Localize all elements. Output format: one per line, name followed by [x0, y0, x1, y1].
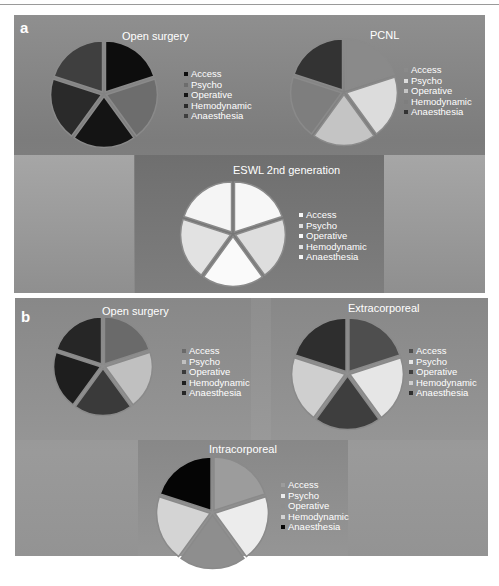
pie-chart — [155, 455, 270, 570]
pie-chart — [290, 316, 405, 431]
legend-label: Anaesthesia — [416, 388, 468, 399]
legend-item-access: Access — [184, 69, 252, 80]
chart-title: Extracorporeal — [348, 302, 420, 314]
legend-marker-icon — [404, 89, 408, 93]
legend-marker-icon — [281, 504, 285, 508]
pie-chart — [52, 315, 154, 417]
pie-chart — [49, 39, 159, 149]
legend-marker-icon — [281, 515, 285, 519]
legend-item-anaesthesia: Anaesthesia — [404, 107, 472, 118]
legend-marker-icon — [299, 234, 303, 238]
legend-label: Operative — [191, 90, 232, 101]
legend-marker-icon — [281, 483, 285, 487]
legend-marker-icon — [182, 381, 186, 385]
legend-item-access: Access — [409, 346, 477, 357]
chart-open-surgery-b: Open surgery AccessPsychoOperativeHemody… — [52, 298, 252, 440]
legend-marker-icon — [409, 349, 413, 353]
legend-label: Anaesthesia — [191, 111, 243, 122]
legend-item-operative: Operative — [299, 231, 367, 242]
legend-label: Anaesthesia — [411, 107, 463, 118]
legend-marker-icon — [299, 224, 303, 228]
legend-item-operative: Operative — [409, 367, 477, 378]
legend-item-access: Access — [182, 346, 250, 357]
legend-marker-icon — [409, 360, 413, 364]
legend-label: Access — [411, 65, 442, 76]
legend-marker-icon — [184, 114, 188, 118]
legend-marker-icon — [299, 255, 303, 259]
legend-label: Anaesthesia — [306, 252, 358, 263]
legend-item-anaesthesia: Anaesthesia — [182, 388, 250, 399]
legend-label: Anaesthesia — [288, 522, 340, 533]
legend-item-anaesthesia: Anaesthesia — [281, 522, 349, 533]
legend-item-anaesthesia: Anaesthesia — [299, 252, 367, 263]
legend-label: Operative — [189, 367, 230, 378]
legend-label: Access — [191, 69, 222, 80]
chart-pcnl: PCNL AccessPsychoOperativeHemodynamicAna… — [289, 15, 485, 155]
legend-marker-icon — [281, 494, 285, 498]
legend-label: Anaesthesia — [189, 388, 241, 399]
legend-label: Operative — [306, 231, 347, 242]
legend-item-operative: Operative — [404, 86, 472, 97]
legend-marker-icon — [409, 391, 413, 395]
legend-marker-icon — [182, 370, 186, 374]
legend-marker-icon — [299, 245, 303, 249]
chart-title: Intracorporeal — [209, 443, 277, 455]
legend-marker-icon — [182, 349, 186, 353]
legend-marker-icon — [184, 104, 188, 108]
legend: AccessPsychoOperativeHemodynamicAnaesthe… — [409, 346, 477, 399]
legend-item-access: Access — [281, 480, 349, 491]
legend-marker-icon — [182, 391, 186, 395]
panel-label-a: a — [20, 19, 28, 36]
legend-item-anaesthesia: Anaesthesia — [409, 388, 477, 399]
legend-label: Access — [189, 346, 220, 357]
legend-marker-icon — [409, 370, 413, 374]
panel-a: a Open surgery AccessPsychoOperativeHemo… — [14, 15, 485, 293]
chart-eswl-2nd-generation: ESWL 2nd generation AccessPsychoOperativ… — [135, 155, 384, 293]
panel-b: b Open surgery AccessPsychoOperativeHemo… — [15, 298, 488, 556]
legend: AccessPsychoOperativeHemodynamicAnaesthe… — [281, 480, 349, 533]
legend-marker-icon — [409, 381, 413, 385]
background-block-left — [14, 155, 134, 293]
legend-marker-icon — [404, 68, 408, 72]
legend-label: Access — [416, 346, 447, 357]
legend-item-operative: Operative — [182, 367, 250, 378]
pie-chart — [289, 37, 399, 147]
chart-title: ESWL 2nd generation — [233, 164, 340, 176]
legend-item-access: Access — [404, 65, 472, 76]
legend-marker-icon — [184, 83, 188, 87]
legend-item-operative: Operative — [184, 90, 252, 101]
legend-label: Operative — [416, 367, 457, 378]
top-rule — [0, 0, 499, 5]
legend-marker-icon — [184, 93, 188, 97]
legend-marker-icon — [182, 360, 186, 364]
pie-chart — [179, 180, 287, 288]
legend: AccessPsychoOperativeHemodynamicAnaesthe… — [404, 65, 472, 118]
legend: AccessPsychoOperativeHemodynamicAnaesthe… — [182, 346, 250, 399]
legend-label: Access — [306, 210, 337, 221]
legend-marker-icon — [404, 79, 408, 83]
legend-marker-icon — [184, 72, 188, 76]
panel-label-b: b — [21, 308, 30, 325]
legend-marker-icon — [404, 110, 408, 114]
legend-label: Operative — [411, 86, 452, 97]
legend-marker-icon — [404, 100, 408, 104]
legend-item-access: Access — [299, 210, 367, 221]
legend-label: Access — [288, 480, 319, 491]
legend-item-anaesthesia: Anaesthesia — [184, 111, 252, 122]
legend-marker-icon — [299, 213, 303, 217]
chart-extracorporeal: Extracorporeal AccessPsychoOperativeHemo… — [285, 298, 488, 440]
legend-label: Operative — [288, 501, 329, 512]
legend-item-operative: Operative — [281, 501, 349, 512]
legend: AccessPsychoOperativeHemodynamicAnaesthe… — [184, 69, 252, 122]
chart-intracorporeal: Intracorporeal AccessPsychoOperativeHemo… — [138, 440, 348, 556]
legend-marker-icon — [281, 525, 285, 529]
legend: AccessPsychoOperativeHemodynamicAnaesthe… — [299, 210, 367, 263]
chart-open-surgery-a: Open surgery AccessPsychoOperativeHemody… — [49, 15, 259, 155]
background-block-right — [384, 155, 485, 293]
